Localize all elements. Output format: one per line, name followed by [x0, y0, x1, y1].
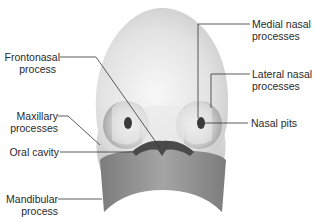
label-mandibular-process: Mandibular process: [0, 193, 58, 217]
label-oral-cavity: Oral cavity: [0, 146, 59, 158]
label-oral-cavity-line1: Oral cavity: [0, 146, 59, 158]
label-mandibular-line1: Mandibular: [0, 193, 58, 205]
label-maxillary-line1: Maxillary: [0, 110, 58, 122]
left-nasal-pit: [124, 117, 132, 129]
label-maxillary-line2: processes: [0, 122, 58, 134]
label-frontonasal-line2: process: [0, 63, 60, 75]
label-medial-nasal-line2: processes: [252, 30, 311, 42]
right-nasal-pit: [197, 117, 205, 129]
mandibular-process-shape: [100, 150, 226, 212]
label-lateral-nasal-line1: Lateral nasal: [252, 68, 312, 80]
label-mandibular-line2: process: [0, 205, 58, 217]
label-medial-nasal-line1: Medial nasal: [252, 18, 311, 30]
embryonic-face-diagram: Frontonasal process Maxillary processes …: [0, 0, 313, 222]
label-nasal-pits: Nasal pits: [251, 117, 297, 129]
medial-nasal-processes-shape: [142, 105, 184, 146]
label-nasal-pits-line1: Nasal pits: [251, 117, 297, 129]
label-maxillary-processes: Maxillary processes: [0, 110, 58, 134]
label-frontonasal-line1: Frontonasal: [0, 51, 60, 63]
label-medial-nasal-processes: Medial nasal processes: [252, 18, 311, 42]
label-frontonasal-process: Frontonasal process: [0, 51, 60, 75]
label-lateral-nasal-line2: processes: [252, 80, 312, 92]
label-lateral-nasal-processes: Lateral nasal processes: [252, 68, 312, 92]
